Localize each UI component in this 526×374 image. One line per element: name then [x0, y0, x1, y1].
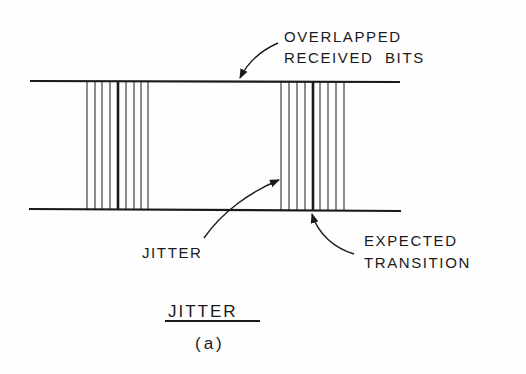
- jitter-label: JITTER: [142, 244, 202, 261]
- bottom-signal-rail: [29, 209, 401, 211]
- left-transition-cluster: [87, 81, 148, 210]
- right-transition-cluster: [281, 81, 344, 210]
- overlapped-label-line2: RECEIVED BITS: [284, 49, 425, 66]
- expected-label-line2: TRANSITION: [364, 254, 471, 271]
- expected-transition-arrow: [312, 214, 354, 254]
- overlapped-label-line1: OVERLAPPED: [284, 28, 402, 45]
- figure-title: JITTER: [168, 302, 238, 321]
- diagram-svg: OVERLAPPED RECEIVED BITS JITTER EXPECTED…: [0, 0, 526, 374]
- expected-label-line1: EXPECTED: [364, 232, 458, 249]
- figure-caption: (a): [195, 334, 225, 353]
- jitter-diagram: OVERLAPPED RECEIVED BITS JITTER EXPECTED…: [0, 0, 526, 374]
- overlapped-bits-arrow: [240, 43, 278, 78]
